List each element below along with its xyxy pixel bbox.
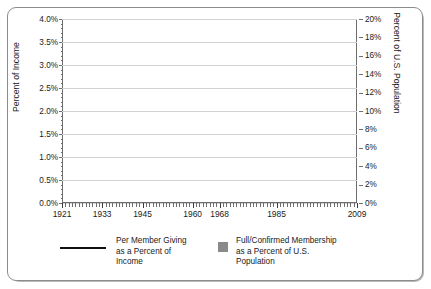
y-axis-right-tick-label: 0% [365, 199, 377, 208]
y-axis-left-tick-label: 3.0% [39, 61, 58, 70]
x-axis-minor-tick [283, 203, 284, 207]
x-axis-minor-tick [320, 203, 321, 207]
x-axis-minor-tick [169, 203, 170, 207]
x-axis-minor-tick [303, 203, 304, 207]
x-axis-minor-tick [280, 203, 281, 207]
y-axis-right-tick-mark [359, 74, 363, 75]
gridline [62, 65, 357, 66]
x-axis-major-tick [277, 203, 278, 208]
x-axis-minor-tick [236, 203, 237, 207]
x-axis-minor-tick [260, 203, 261, 207]
gridline [62, 180, 357, 181]
x-axis-major-tick [102, 203, 103, 208]
x-axis-minor-tick [146, 203, 147, 207]
chart-legend: Per Member Givingas a Percent ofIncomeFu… [60, 236, 390, 272]
x-axis-minor-tick [226, 203, 227, 207]
y-axis-right-tick-label: 8% [365, 125, 377, 134]
x-axis-minor-tick [176, 203, 177, 207]
y-axis-right-tick-label: 6% [365, 143, 377, 152]
y-axis-right-tick-label: 12% [365, 88, 381, 97]
x-axis-minor-tick [183, 203, 184, 207]
x-axis-minor-tick [132, 203, 133, 207]
x-axis-minor-tick [337, 203, 338, 207]
x-axis-major-tick [357, 203, 358, 208]
x-axis-minor-tick [75, 203, 76, 207]
x-axis-minor-tick [354, 203, 355, 207]
y-axis-right-tick-label: 2% [365, 180, 377, 189]
x-axis-minor-tick [72, 203, 73, 207]
x-axis-minor-tick [159, 203, 160, 207]
x-axis-minor-tick [163, 203, 164, 207]
legend-label: Per Member Giving [116, 236, 187, 247]
y-axis-left-tick-label: 4.0% [39, 15, 58, 24]
x-axis-minor-tick [310, 203, 311, 207]
y-axis-left-tick-label: 0.5% [39, 176, 58, 185]
x-axis-tick-label: 2009 [337, 209, 377, 219]
x-axis-minor-tick [153, 203, 154, 207]
x-axis-minor-tick [119, 203, 120, 207]
x-axis-minor-tick [129, 203, 130, 207]
plot-area [62, 19, 357, 203]
x-axis-minor-tick [173, 203, 174, 207]
chart-figure: Percent of Income 0.0%0.5%1.0%1.5%2.0%2.… [0, 0, 431, 289]
x-axis-minor-tick [240, 203, 241, 207]
y-axis-right-tick-mark [359, 111, 363, 112]
y-axis-right: 0%2%4%6%8%10%12%14%16%18%20% [359, 19, 393, 203]
legend-line-swatch [60, 247, 106, 249]
x-axis-minor-tick [89, 203, 90, 207]
y-axis-right-tick-mark [359, 185, 363, 186]
x-axis-minor-tick [210, 203, 211, 207]
x-axis-minor-tick [99, 203, 100, 207]
x-axis-tick-label: 1968 [200, 209, 240, 219]
x-axis-minor-tick [324, 203, 325, 207]
x-axis-minor-tick [350, 203, 351, 207]
x-axis-minor-tick [179, 203, 180, 207]
x-axis-minor-tick [216, 203, 217, 207]
legend-label: Full/Confirmed Membership [236, 236, 337, 247]
x-axis-minor-tick [69, 203, 70, 207]
legend-square-swatch [218, 242, 228, 252]
gridline [62, 42, 357, 43]
x-axis-minor-tick [223, 203, 224, 207]
y-axis-right-tick-mark [359, 129, 363, 130]
x-axis-major-tick [62, 203, 63, 208]
y-axis-left-tick-label: 3.5% [39, 38, 58, 47]
y-axis-right-tick-label: 4% [365, 162, 377, 171]
x-axis-minor-tick [287, 203, 288, 207]
gridline [62, 157, 357, 158]
x-axis-minor-tick [116, 203, 117, 207]
x-axis-minor-tick [166, 203, 167, 207]
x-axis-minor-tick [327, 203, 328, 207]
y-axis-right-tick-label: 10% [365, 107, 381, 116]
legend-label: Income [116, 257, 143, 268]
x-axis-minor-tick [156, 203, 157, 207]
y-axis-right-title: Percent of U.S. Population [392, 3, 402, 123]
legend-label: Population [236, 257, 275, 268]
x-axis-minor-tick [300, 203, 301, 207]
x-axis-minor-tick [243, 203, 244, 207]
x-axis-minor-tick [267, 203, 268, 207]
x-axis-minor-tick [233, 203, 234, 207]
y-axis-right-tick-mark [359, 56, 363, 57]
x-axis-minor-tick [109, 203, 110, 207]
y-axis-right-tick-label: 16% [365, 51, 381, 60]
y-axis-right-tick-label: 20% [365, 15, 381, 24]
y-axis-right-tick-label: 14% [365, 70, 381, 79]
x-axis-major-tick [143, 203, 144, 208]
x-axis-minor-tick [199, 203, 200, 207]
x-axis-minor-tick [139, 203, 140, 207]
x-axis-minor-tick [189, 203, 190, 207]
x-axis-minor-tick [92, 203, 93, 207]
y-axis-left-tick-label: 1.5% [39, 130, 58, 139]
x-axis-minor-tick [246, 203, 247, 207]
x-axis-minor-tick [263, 203, 264, 207]
x-axis-minor-tick [213, 203, 214, 207]
x-axis-minor-tick [196, 203, 197, 207]
legend-label: as a Percent of [116, 247, 171, 258]
x-axis-minor-tick [297, 203, 298, 207]
y-axis-left: 0.0%0.5%1.0%1.5%2.0%2.5%3.0%3.5%4.0% [18, 19, 58, 203]
x-axis-major-tick [193, 203, 194, 208]
x-axis-minor-tick [79, 203, 80, 207]
x-axis-minor-tick [334, 203, 335, 207]
x-axis-minor-tick [340, 203, 341, 207]
